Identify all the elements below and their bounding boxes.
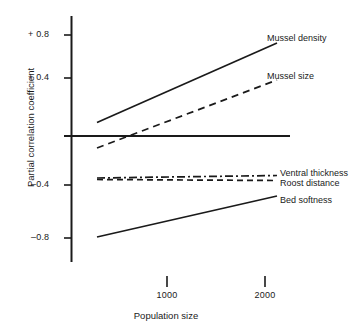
series-label-bed-softness: Bed softness bbox=[280, 195, 332, 205]
series-label-ventral-thickness: Ventral thickness bbox=[280, 168, 348, 178]
y-axis-title: Partial correlation coefficient bbox=[25, 28, 36, 228]
series-label-roost-distance: Roost distance bbox=[280, 178, 340, 188]
series-line-mussel-density bbox=[97, 43, 277, 123]
series-line-ventral-thickness bbox=[97, 176, 277, 179]
series-line-bed-softness bbox=[97, 196, 277, 237]
series-line-roost-distance bbox=[97, 180, 277, 181]
x-tick-label-1000: 1000 bbox=[157, 290, 178, 300]
series-label-mussel-size: Mussel size bbox=[267, 71, 314, 81]
y-tick-label-minus-08: –0.8 bbox=[31, 232, 49, 242]
series-line-mussel-size bbox=[97, 80, 277, 148]
x-tick-label-2000: 2000 bbox=[255, 290, 276, 300]
series-label-mussel-density: Mussel density bbox=[267, 33, 327, 43]
x-axis-title: Population size bbox=[134, 310, 198, 321]
